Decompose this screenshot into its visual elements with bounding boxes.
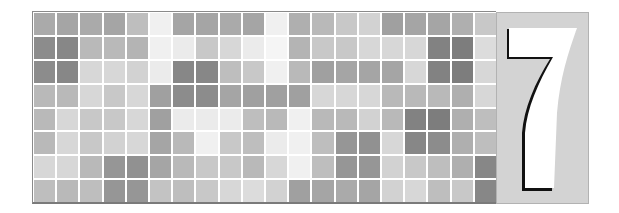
numeral-seven-icon [497, 13, 590, 205]
mosaic-tile [34, 37, 55, 59]
mosaic-tile [34, 180, 55, 202]
mosaic-tile [57, 61, 78, 83]
mosaic-tile [475, 180, 496, 202]
mosaic-tile [266, 37, 287, 59]
mosaic-tile [475, 13, 496, 35]
mosaic-tile [196, 156, 217, 178]
mosaic-tile [173, 85, 194, 107]
mosaic-tile [173, 132, 194, 154]
mosaic-tile [173, 109, 194, 131]
mosaic-tile [336, 132, 357, 154]
mosaic-tile [34, 156, 55, 178]
mosaic-tile [127, 156, 148, 178]
mosaic-tile [266, 180, 287, 202]
mosaic-tile [80, 109, 101, 131]
mosaic-tile [428, 85, 449, 107]
mosaic-tile [243, 61, 264, 83]
mosaic-tile [57, 13, 78, 35]
mosaic-tile [475, 85, 496, 107]
mosaic-tile [104, 13, 125, 35]
mosaic-tile [312, 13, 333, 35]
mosaic-tile [104, 109, 125, 131]
mosaic-tile [405, 109, 426, 131]
mosaic-tile [382, 109, 403, 131]
mosaic-tile [150, 180, 171, 202]
mosaic-tile [428, 156, 449, 178]
mosaic-tile [405, 13, 426, 35]
mosaic-tile [359, 132, 380, 154]
mosaic-tile [80, 85, 101, 107]
mosaic-tile [104, 180, 125, 202]
mosaic-tile [405, 61, 426, 83]
mosaic-tile [289, 61, 310, 83]
mosaic-tile [80, 132, 101, 154]
mosaic-tile [452, 85, 473, 107]
mosaic-tile [336, 61, 357, 83]
mosaic-tile [220, 109, 241, 131]
mosaic-tile [405, 132, 426, 154]
mosaic-tile [127, 109, 148, 131]
mosaic-tile [382, 132, 403, 154]
mosaic-tile [80, 37, 101, 59]
mosaic-tile [80, 61, 101, 83]
mosaic-tile [243, 109, 264, 131]
mosaic-tile [196, 85, 217, 107]
mosaic-tile [336, 85, 357, 107]
mosaic-tile [220, 132, 241, 154]
mosaic-tile [196, 109, 217, 131]
mosaic-tile [104, 85, 125, 107]
mosaic-tile [196, 37, 217, 59]
mosaic-tile [34, 85, 55, 107]
mosaic-tile [336, 13, 357, 35]
mosaic-tile [405, 37, 426, 59]
mosaic-tile [150, 61, 171, 83]
mosaic-tile [359, 13, 380, 35]
mosaic-tile [220, 13, 241, 35]
mosaic-tile [266, 13, 287, 35]
mosaic-tile [127, 180, 148, 202]
mosaic-tile [34, 61, 55, 83]
mosaic-tile [127, 132, 148, 154]
mosaic-tile [266, 61, 287, 83]
mosaic-tile [452, 132, 473, 154]
mosaic-tile [173, 156, 194, 178]
mosaic-tile [428, 37, 449, 59]
mosaic-tile [57, 109, 78, 131]
mosaic-tile [475, 61, 496, 83]
mosaic-tile [34, 132, 55, 154]
mosaic-tile [266, 109, 287, 131]
mosaic-tile [289, 180, 310, 202]
mosaic-tile [150, 37, 171, 59]
mosaic-tile [173, 13, 194, 35]
mosaic-tile [266, 156, 287, 178]
mosaic-tile [336, 180, 357, 202]
mosaic-tile [382, 180, 403, 202]
mosaic-tile [382, 85, 403, 107]
mosaic-tile [405, 85, 426, 107]
mosaic-tile [289, 156, 310, 178]
mosaic-tile [289, 13, 310, 35]
mosaic-tile [127, 85, 148, 107]
chapter-number-panel: 7 [496, 12, 589, 204]
mosaic-tile [243, 13, 264, 35]
mosaic-tile [80, 180, 101, 202]
mosaic-tile [359, 109, 380, 131]
mosaic-tile [57, 156, 78, 178]
mosaic-tile [452, 61, 473, 83]
mosaic-tile [150, 156, 171, 178]
mosaic-tile [475, 37, 496, 59]
mosaic-tile [220, 85, 241, 107]
mosaic-tile [382, 13, 403, 35]
mosaic-tile [104, 37, 125, 59]
mosaic-tile [428, 180, 449, 202]
mosaic-tile [150, 132, 171, 154]
mosaic-tile [104, 61, 125, 83]
mosaic-tile [266, 132, 287, 154]
mosaic-tile [173, 180, 194, 202]
mosaic-tile [57, 180, 78, 202]
mosaic-tile [452, 37, 473, 59]
mosaic-tile [359, 180, 380, 202]
mosaic-tile [452, 13, 473, 35]
mosaic-tile [57, 85, 78, 107]
mosaic-tile [452, 180, 473, 202]
